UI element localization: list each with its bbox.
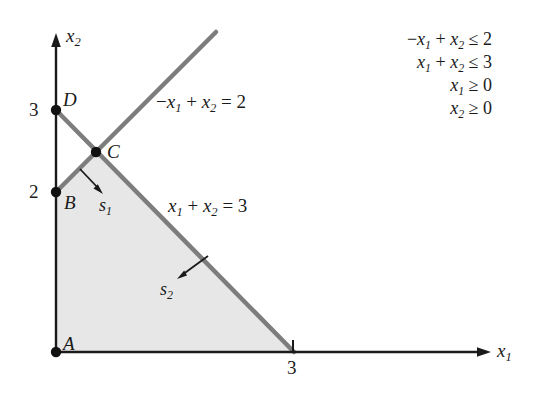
vertex-marker-D — [51, 105, 61, 115]
line-label-constraint-1: −x1 + x2 = 2 — [156, 92, 246, 111]
vertex-label-A: A — [63, 334, 75, 353]
vertex-label-C: C — [107, 142, 120, 161]
y-axis-label: x2 — [66, 26, 81, 45]
x-tick-label-3: 3 — [287, 358, 297, 377]
y-tick-label-3: 3 — [29, 100, 39, 119]
constraint-line-1 — [56, 32, 216, 192]
constraint-row-2: x1 + x2 ≤ 3 — [330, 51, 492, 74]
vertex-label-B: B — [64, 193, 76, 212]
constraint-row-1: −x1 + x2 ≤ 2 — [330, 28, 492, 51]
constraint-row-3: x1 ≥ 0 — [330, 74, 492, 97]
vertex-marker-A — [51, 347, 61, 357]
constraint-row-4: x2 ≥ 0 — [330, 97, 492, 120]
line-label-constraint-2: x1 + x2 = 3 — [168, 196, 247, 215]
x-axis-label: x1 — [497, 341, 512, 360]
constraint-system: −x1 + x2 ≤ 2 x1 + x2 ≤ 3 x1 ≥ 0 x2 ≥ 0 — [330, 28, 492, 120]
slack-label-s1: s1 — [99, 196, 112, 214]
slack-label-s2: s2 — [160, 280, 173, 298]
vertex-marker-C — [91, 147, 101, 157]
x-axis-arrowhead — [477, 347, 491, 357]
vertex-label-D: D — [63, 90, 77, 109]
vertex-marker-B — [51, 187, 61, 197]
y-axis-arrowhead — [51, 33, 61, 47]
y-tick-label-2: 2 — [29, 182, 39, 201]
figure-canvas: x2 x1 3 2 3 A B C D −x1 + x2 = 2 x1 + x2… — [0, 0, 536, 398]
